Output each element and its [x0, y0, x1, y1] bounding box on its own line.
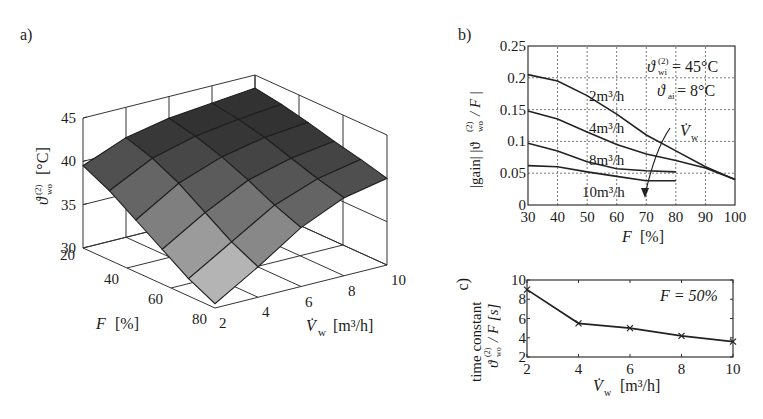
svg-text:ai: ai [668, 91, 675, 101]
svg-text:|gain| |ϑ: |gain| |ϑ [467, 141, 483, 188]
svg-text:time constant: time constant [468, 301, 484, 382]
surface-plot-3d: 3035404520406080246810 F [%] V̇ w [m³/h]… [33, 75, 406, 338]
svg-text:60: 60 [609, 209, 624, 225]
svg-text:2: 2 [519, 349, 527, 365]
surface-mesh [83, 88, 387, 304]
svg-text:0.1: 0.1 [507, 133, 526, 149]
svg-text:ϑ: ϑ [485, 359, 501, 368]
svg-text:0.2: 0.2 [507, 70, 526, 86]
b-annotation-inlet-temp: ϑ (2) wi = 45°C [647, 56, 718, 77]
b-xlabel-unit: [%] [640, 228, 664, 245]
b-xlabel-var: F [621, 228, 632, 245]
svg-text:10: 10 [726, 361, 741, 377]
svg-text:wi: wi [658, 67, 667, 77]
svg-text:6: 6 [626, 361, 634, 377]
svg-text:10: 10 [391, 272, 406, 288]
c-xlabel: V̇ w [m³/h] [593, 377, 660, 398]
a-xlabel-var: F [95, 315, 106, 332]
c-ylabel: time constant ϑ (2) wo / F [s] [468, 301, 503, 382]
svg-text:2: 2 [219, 315, 227, 331]
b-series-labels: 2m³/h4m³/h8m³/h10m³/h [582, 88, 625, 200]
svg-text:35: 35 [61, 197, 76, 213]
svg-text:0.15: 0.15 [500, 102, 526, 118]
series-label: 8m³/h [589, 152, 625, 168]
svg-text:w: w [604, 387, 612, 398]
a-zlabel-unit: [°C] [34, 147, 51, 175]
svg-text:60: 60 [148, 291, 163, 307]
svg-text:wo: wo [494, 347, 503, 357]
svg-text:= 45°C: = 45°C [672, 58, 718, 75]
figure-canvas: a) b) c) 3035404520406080246810 F [%] V̇… [0, 0, 763, 419]
svg-text:0.05: 0.05 [500, 165, 526, 181]
svg-text:w: w [691, 132, 699, 143]
svg-text:= 8°C: = 8°C [677, 82, 715, 99]
svg-text:40: 40 [61, 153, 76, 169]
svg-text:6: 6 [305, 294, 313, 310]
svg-text:80: 80 [192, 311, 207, 327]
svg-text:wo: wo [475, 121, 485, 132]
svg-text:80: 80 [668, 209, 683, 225]
a-ylabel-unit: [m³/h] [333, 317, 373, 334]
svg-text:[m³/h]: [m³/h] [620, 377, 660, 394]
svg-text:20: 20 [60, 247, 75, 263]
svg-text:4: 4 [262, 304, 270, 320]
a-ylabel-sub: w [318, 326, 326, 338]
a-zlabel-sub: wo [44, 184, 54, 195]
svg-text:100: 100 [724, 209, 747, 225]
gain-line-chart: 3040506070809010000.050.10.150.20.25 2m³… [464, 38, 746, 245]
b-annotation-air-temp: ϑ ai = 8°C [657, 82, 715, 101]
svg-text:ϑ: ϑ [657, 82, 666, 99]
a-zlabel-var: ϑ [34, 196, 51, 205]
svg-text:/ F |: / F | [467, 91, 483, 117]
panel-label-b: b) [458, 26, 471, 44]
svg-text:0: 0 [519, 197, 527, 213]
svg-text:4: 4 [519, 330, 527, 346]
svg-text:40: 40 [550, 209, 565, 225]
svg-text:10: 10 [511, 272, 526, 288]
c-annotation: F = 50% [659, 287, 718, 304]
panel-label-c: c) [454, 278, 472, 290]
a-xlabel-unit: [%] [115, 315, 139, 332]
svg-text:50: 50 [580, 209, 595, 225]
svg-text:ϑ: ϑ [647, 58, 656, 75]
svg-text:(2): (2) [658, 56, 669, 66]
time-constant-chart: 246810246810 F = 50% V̇ w [m³/h] time co… [468, 272, 741, 398]
svg-text:4: 4 [575, 361, 583, 377]
arrow-icon [645, 128, 670, 195]
series-label: 4m³/h [589, 120, 625, 136]
arrowhead-icon [641, 188, 649, 198]
svg-text:40: 40 [104, 271, 119, 287]
svg-text:70: 70 [639, 209, 654, 225]
svg-text:90: 90 [698, 209, 713, 225]
a-zlabel: ϑ (2) wo [°C] [33, 147, 54, 205]
panel-label-a: a) [20, 26, 32, 44]
a-zlabel-sup: (2) [33, 185, 43, 196]
svg-text:0.25: 0.25 [500, 38, 526, 54]
svg-text:8: 8 [348, 283, 356, 299]
svg-text:(2): (2) [483, 347, 492, 357]
svg-text:6: 6 [519, 311, 527, 327]
svg-text:8: 8 [519, 291, 527, 307]
svg-text:45: 45 [61, 110, 76, 126]
svg-text:/ F [s]: / F [s] [485, 303, 501, 343]
svg-text:8: 8 [678, 361, 686, 377]
a-ylabel-var: V̇ [306, 317, 318, 334]
series-label: 10m³/h [582, 184, 625, 200]
svg-text:(2): (2) [464, 122, 474, 133]
series-label: 2m³/h [589, 88, 625, 104]
b-ylabel: |gain| |ϑ (2) wo / F | [464, 91, 485, 188]
